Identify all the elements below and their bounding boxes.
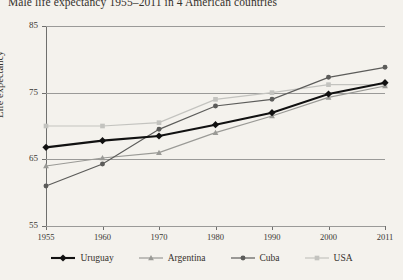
data-point-marker (326, 75, 331, 80)
x-tick-label: 2000 (309, 232, 349, 242)
series-line (46, 83, 385, 148)
data-point-marker (44, 124, 49, 129)
x-tick-label: 1980 (196, 232, 236, 242)
series-layer (46, 26, 385, 226)
y-axis-label: Life expectancy (0, 51, 5, 118)
data-point-marker (326, 82, 331, 87)
chart-legend: UruguayArgentinaCubaUSA (0, 252, 403, 264)
legend-item-usa[interactable]: USA (304, 252, 353, 264)
data-point-marker (100, 124, 105, 129)
legend-item-argentina[interactable]: Argentina (138, 252, 206, 264)
plot-area (46, 26, 385, 226)
data-point-marker (60, 254, 67, 261)
series-uruguay (42, 79, 388, 151)
legend-item-uruguay[interactable]: Uruguay (50, 252, 113, 264)
data-point-marker (213, 104, 218, 109)
y-tick-label: 85 (0, 20, 38, 30)
legend-label: USA (334, 253, 353, 263)
y-tick-label: 65 (0, 153, 38, 163)
y-tick-label: 55 (0, 220, 38, 230)
data-point-marker (213, 97, 218, 102)
chart-title: Male life expectancy 1955–2011 in 4 Amer… (8, 0, 277, 8)
y-tick-label: 75 (0, 87, 38, 97)
data-point-marker (157, 127, 162, 132)
gridline (46, 226, 385, 227)
data-point-marker (270, 90, 275, 95)
legend-item-cuba[interactable]: Cuba (230, 252, 280, 264)
x-tick-label: 1960 (83, 232, 123, 242)
data-point-marker (44, 184, 49, 189)
x-tick-label: 1990 (252, 232, 292, 242)
data-point-marker (100, 162, 105, 167)
x-tick-label: 1955 (26, 232, 66, 242)
legend-square-icon (304, 252, 330, 264)
legend-label: Cuba (260, 253, 280, 263)
legend-circle-icon (230, 252, 256, 264)
x-tick-label: 1970 (139, 232, 179, 242)
legend-label: Argentina (168, 253, 206, 263)
x-tick-mark (385, 226, 386, 230)
data-point-marker (270, 97, 275, 102)
legend-diamond-icon (50, 252, 76, 264)
data-point-marker (155, 132, 162, 139)
data-point-marker (212, 121, 219, 128)
chart-container: Male life expectancy 1955–2011 in 4 Amer… (0, 0, 403, 280)
data-point-marker (383, 65, 388, 70)
data-point-marker (240, 256, 245, 261)
data-point-marker (99, 137, 106, 144)
data-point-marker (314, 256, 319, 261)
data-point-marker (42, 144, 49, 151)
x-tick-label: 2011 (365, 232, 403, 242)
legend-triangle-icon (138, 252, 164, 264)
legend-label: Uruguay (80, 253, 113, 263)
data-point-marker (157, 120, 162, 125)
